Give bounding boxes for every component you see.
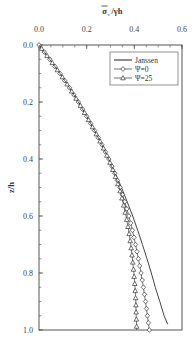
x-axis-title-subscript: v <box>108 12 111 17</box>
plot-frame <box>39 45 182 330</box>
y-tick-label: 0.0 <box>23 41 33 50</box>
y-tick-label: 0.2 <box>23 98 33 107</box>
legend-label: Janssen <box>135 56 158 65</box>
series-janssen <box>39 45 168 324</box>
y-axis-title: z/h <box>6 182 16 193</box>
y-axis-ticks: 0.00.20.40.60.81.0 <box>23 41 43 335</box>
series-diamond <box>37 43 152 333</box>
x-tick-label: 0.6 <box>177 25 187 34</box>
y-axis-title-text: z/h <box>6 182 16 193</box>
x-tick-label: 0.2 <box>82 25 92 34</box>
series-triangle <box>39 45 139 330</box>
legend-label: Ψ=0 <box>135 65 149 74</box>
y-tick-label: 0.6 <box>23 212 33 221</box>
x-axis-title-text: σ <box>102 6 107 16</box>
y-tick-label: 0.4 <box>23 155 33 164</box>
x-axis-title-rest: /γh <box>111 6 123 16</box>
series-layer <box>37 43 168 333</box>
legend-label: Ψ=25 <box>135 74 153 83</box>
y-tick-label: 0.8 <box>23 269 33 278</box>
x-tick-label: 0.0 <box>34 25 44 34</box>
chart: σv/γh 0.00.20.40.6 0.00.20.40.60.81.0 z/… <box>0 0 196 347</box>
x-axis-title: σv/γh <box>102 6 123 17</box>
legend: JanssenΨ=0Ψ=25 <box>110 52 178 85</box>
y-tick-label: 1.0 <box>23 326 33 335</box>
x-tick-label: 0.4 <box>129 25 139 34</box>
